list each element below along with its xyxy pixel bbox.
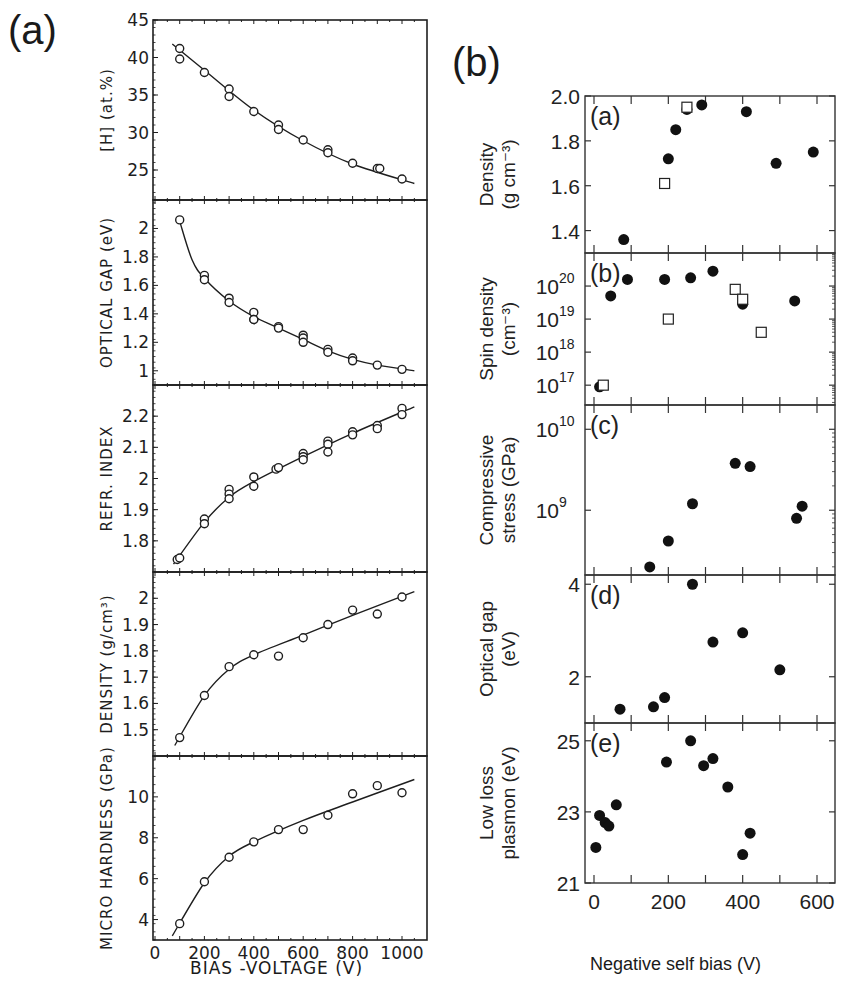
data-point	[299, 338, 307, 346]
y-tick-label: 10	[536, 499, 559, 522]
y-axis-label: Low loss	[476, 766, 497, 840]
y-tick-label: 4	[138, 910, 149, 930]
y-tick-label: 35	[127, 85, 149, 105]
data-point	[200, 276, 208, 284]
data-point-filled	[659, 692, 670, 703]
data-point	[250, 482, 258, 490]
data-point	[349, 431, 357, 439]
data-point-filled	[707, 753, 718, 764]
data-point-filled	[685, 272, 696, 283]
data-point	[250, 473, 258, 481]
data-point	[250, 838, 258, 846]
data-point-filled	[648, 701, 659, 712]
data-point	[275, 324, 283, 332]
data-point	[349, 606, 357, 614]
data-point	[176, 920, 184, 928]
y-tick-label: 10	[127, 787, 149, 807]
data-point	[324, 440, 332, 448]
y-tick-label: 10	[536, 308, 559, 331]
data-point	[250, 651, 258, 659]
y-axis-label: MICRO HARDNESS (GPa)	[98, 746, 116, 950]
y-tick-label: 21	[557, 872, 580, 895]
data-point	[349, 357, 357, 365]
y-axis-label: (cm⁻³)	[498, 302, 519, 356]
y-axis-label: Optical gap	[476, 601, 497, 697]
data-point	[225, 663, 233, 671]
data-point	[349, 159, 357, 167]
y-axis-label: Compressive	[476, 435, 497, 546]
data-point-filled	[797, 501, 808, 512]
data-point	[275, 126, 283, 134]
data-point-filled	[661, 757, 672, 768]
fit-curve	[172, 44, 414, 184]
data-point	[324, 149, 332, 157]
data-point-filled	[789, 295, 800, 306]
y-tick-label: 10	[536, 418, 559, 441]
data-point-filled	[603, 821, 614, 832]
data-point-filled	[663, 153, 674, 164]
x-tick-label: 600	[799, 890, 834, 913]
x-tick-label: 400	[725, 890, 760, 913]
y-axis-label: (g cm⁻³)	[498, 139, 519, 209]
y-tick-label: 2.2	[122, 406, 149, 426]
y-tick-exponent: 10	[559, 413, 575, 429]
data-point-filled	[730, 458, 741, 469]
subplot-tag: (e)	[590, 729, 621, 757]
y-tick-label: 2	[138, 588, 149, 608]
x-tick-label: 0	[150, 943, 161, 963]
data-point	[176, 55, 184, 63]
y-tick-label: 4	[568, 573, 580, 596]
x-tick-label: 600	[287, 943, 319, 963]
data-point-filled	[741, 106, 752, 117]
figure-canvas: 2530354045[H] (at.%)11.21.41.61.82OPTICA…	[0, 0, 845, 994]
subplot-tag: (c)	[590, 411, 619, 439]
data-point-open-square	[730, 284, 740, 294]
y-tick-exponent: 19	[559, 303, 575, 319]
data-point-filled	[771, 158, 782, 169]
data-point-filled	[722, 782, 733, 793]
subplot-tag: (d)	[590, 581, 621, 609]
data-point-filled	[622, 274, 633, 285]
subplot-b-a: 1.41.61.82.0(a)Density(g cm⁻³)	[476, 85, 835, 253]
data-point	[176, 45, 184, 53]
data-point	[200, 692, 208, 700]
y-axis-label: Density	[476, 142, 497, 206]
subplot-a-2: 11.21.41.61.82OPTICAL GAP (eV)	[98, 200, 427, 385]
data-point-filled	[611, 799, 622, 810]
data-point-filled	[687, 579, 698, 590]
data-point	[200, 520, 208, 528]
data-point	[373, 782, 381, 790]
y-tick-label: 2.0	[551, 85, 580, 108]
data-point	[398, 365, 406, 373]
y-axis-label: DENSITY (g/cm³)	[98, 594, 116, 733]
y-tick-label: 10	[536, 341, 559, 364]
data-point-filled	[745, 461, 756, 472]
y-tick-label: 1.4	[122, 304, 149, 324]
data-point-filled	[696, 99, 707, 110]
subplot-tag: (a)	[590, 102, 621, 130]
y-tick-label: 25	[557, 730, 580, 753]
y-tick-label: 10	[536, 275, 559, 298]
y-axis-label: OPTICAL GAP (eV)	[98, 217, 116, 368]
x-tick-label: 800	[336, 943, 368, 963]
y-tick-label: 1.5	[122, 720, 149, 740]
data-point-open-square	[738, 294, 748, 304]
data-point	[275, 826, 283, 834]
data-point-filled	[644, 561, 655, 572]
data-point	[275, 464, 283, 472]
data-point-filled	[698, 760, 709, 771]
data-point-open-square	[660, 178, 670, 188]
data-point	[299, 136, 307, 144]
subplot-tag: (b)	[590, 259, 621, 287]
data-point	[373, 361, 381, 369]
y-tick-label: 2	[138, 469, 149, 489]
y-tick-label: 10	[536, 374, 559, 397]
y-axis-label: stress (GPa)	[498, 437, 519, 544]
y-tick-label: 1.8	[551, 130, 580, 153]
data-point-filled	[605, 290, 616, 301]
y-axis-label: [H] (at.%)	[98, 68, 116, 152]
data-point	[176, 554, 184, 562]
data-point	[324, 811, 332, 819]
y-tick-label: 1	[138, 361, 149, 381]
data-point	[225, 495, 233, 503]
